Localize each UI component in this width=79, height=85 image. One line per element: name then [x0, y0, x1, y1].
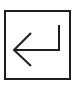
- enter-key-button[interactable]: Enter: [4, 10, 71, 80]
- enter-return-icon: [0, 0, 79, 85]
